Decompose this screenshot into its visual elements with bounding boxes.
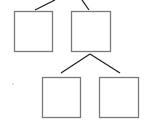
edge-b-to-c [61,54,90,73]
stray-dot [12,83,14,85]
node-box-a [15,12,53,52]
edge-b-to-d [90,54,120,73]
nodes [15,12,139,118]
tree-diagram [0,0,156,122]
node-box-d [100,78,139,118]
node-box-b [72,12,111,52]
edge-parent-to-b [82,0,89,10]
node-box-c [43,78,81,118]
edge-parent-to-a [35,0,55,10]
